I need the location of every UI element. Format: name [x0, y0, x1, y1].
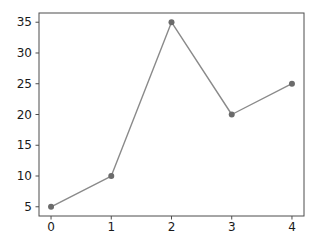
data-point-marker: [48, 204, 54, 210]
y-tick-label: 30: [17, 46, 32, 60]
x-tick-label: 4: [288, 220, 296, 234]
y-tick-label: 10: [17, 169, 32, 183]
x-tick-label: 1: [107, 220, 115, 234]
data-point-marker: [289, 81, 295, 87]
y-tick-label: 20: [17, 108, 32, 122]
x-tick-label: 0: [47, 220, 55, 234]
y-tick-label: 25: [17, 77, 32, 91]
figure-background: [0, 0, 322, 246]
line-chart: 012345101520253035: [0, 0, 322, 246]
x-tick-label: 3: [228, 220, 236, 234]
data-point-marker: [229, 112, 235, 118]
data-point-marker: [108, 173, 114, 179]
line-chart-figure: 012345101520253035: [0, 0, 322, 246]
y-tick-label: 5: [24, 200, 32, 214]
x-tick-label: 2: [168, 220, 176, 234]
y-tick-label: 35: [17, 15, 32, 29]
data-point-marker: [169, 19, 175, 25]
y-tick-label: 15: [17, 138, 32, 152]
